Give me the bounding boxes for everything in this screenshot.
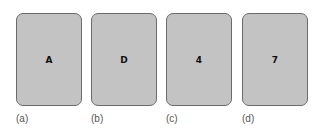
card-face-d: 7 [272,55,278,65]
card-d: 7 [242,13,308,106]
caption-c: (c) [166,113,178,124]
card-face-b: D [120,55,127,65]
card-b: D [91,13,157,106]
card-face-a: A [46,55,53,65]
caption-b: (b) [91,113,103,124]
card-a: A [16,13,82,106]
caption-d: (d) [242,113,254,124]
caption-a: (a) [16,113,28,124]
card-c: 4 [166,13,232,106]
card-face-c: 4 [196,55,202,65]
